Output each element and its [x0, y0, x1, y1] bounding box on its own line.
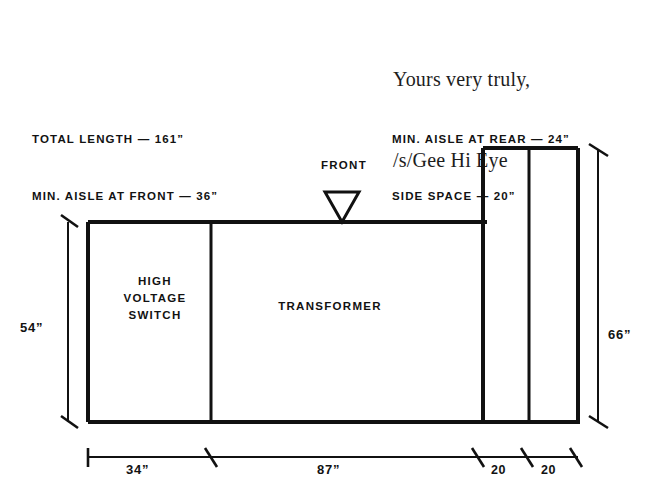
dim-label-87: 87”	[317, 462, 340, 477]
dim-label-right-height: 66”	[608, 327, 631, 342]
dim-tick-left-top	[61, 215, 78, 227]
floor-plan-drawing	[0, 0, 658, 500]
down-triangle-icon	[325, 192, 359, 222]
room-label-high-voltage-switch: HIGH VOLTAGE SWITCH	[100, 273, 210, 324]
dim-label-left-height: 54”	[20, 320, 43, 335]
dim-label-20-b: 20	[541, 463, 556, 477]
dim-tick-left-bottom	[61, 416, 78, 428]
room-label-transformer: TRANSFORMER	[250, 298, 410, 315]
dim-label-34: 34”	[126, 462, 149, 477]
diagram-page: Yours very truly, /s/Gee Hi Eye TOTAL LE…	[0, 0, 658, 500]
dim-label-20-a: 20	[491, 463, 506, 477]
